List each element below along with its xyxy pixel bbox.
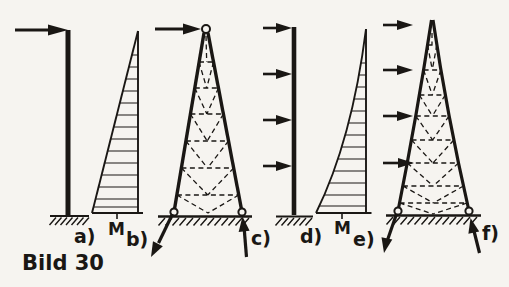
right-base-pin: [238, 208, 245, 215]
moment-symbol-e: M: [334, 218, 351, 238]
moment-symbol-b: M: [108, 219, 125, 239]
panel-a-label: a): [74, 225, 96, 247]
support-reaction-arrow-shaft: [244, 230, 246, 257]
panel-c-label: c): [251, 227, 271, 249]
panel-d-label: d): [300, 225, 322, 247]
panel-f-label: f): [482, 222, 499, 244]
panel-e-label: e): [353, 228, 375, 250]
left-base-pin: [394, 207, 401, 214]
figure-canvas: a) M b) c): [0, 0, 509, 287]
panel-b-label: b): [126, 228, 148, 250]
apex-pin-joint: [202, 25, 210, 33]
bild-30-diagram: a) M b) c): [0, 0, 509, 287]
figure-caption: Bild 30: [22, 251, 104, 275]
right-base-pin: [465, 207, 472, 214]
